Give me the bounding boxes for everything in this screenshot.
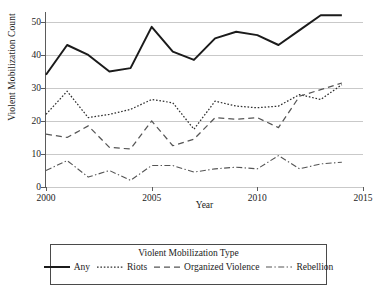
y-axis-title: Violent Mobilization Count (7, 0, 17, 167)
legend-swatch-dashed-icon (154, 263, 180, 271)
y-tick-label: 0 (36, 182, 41, 192)
legend-label: Any (74, 262, 90, 272)
legend-label: Rebellion (296, 262, 333, 272)
series-line-riots (46, 85, 342, 130)
x-tick-mark (257, 187, 258, 191)
legend-swatch-solid-icon (44, 263, 70, 271)
x-tick-mark (152, 187, 153, 191)
x-tick-mark (46, 187, 47, 191)
series-line-organized-violence (46, 83, 342, 149)
y-tick-label: 50 (32, 17, 42, 27)
legend-entries: AnyRiotsOrganized ViolenceRebellion (51, 262, 326, 272)
violent-mobilization-line-chart: Violent Mobilization Count 01020304050 2… (0, 0, 381, 295)
legend-label: Riots (127, 262, 147, 272)
legend-swatch-dotted-icon (97, 263, 123, 271)
gridline (46, 187, 363, 188)
y-tick-label: 10 (32, 149, 42, 159)
y-tick-label: 20 (32, 116, 42, 126)
plot-area: 01020304050 2000200520102015 (46, 12, 363, 187)
legend-item-any[interactable]: Any (44, 262, 90, 272)
legend-title: Violent Mobilization Type (51, 248, 326, 258)
legend: Violent Mobilization Type AnyRiotsOrgani… (50, 244, 327, 285)
x-axis-title: Year (46, 200, 363, 210)
series-line-rebellion (46, 156, 342, 181)
legend-item-rebellion[interactable]: Rebellion (266, 262, 333, 272)
legend-item-riots[interactable]: Riots (97, 262, 147, 272)
x-tick-mark (363, 187, 364, 191)
y-tick-label: 30 (32, 83, 42, 93)
series-lines (46, 12, 363, 187)
series-line-any (46, 15, 342, 74)
legend-label: Organized Violence (184, 262, 259, 272)
legend-swatch-dashdot-icon (266, 263, 292, 271)
legend-item-organized-violence[interactable]: Organized Violence (154, 262, 259, 272)
y-tick-label: 40 (32, 50, 42, 60)
